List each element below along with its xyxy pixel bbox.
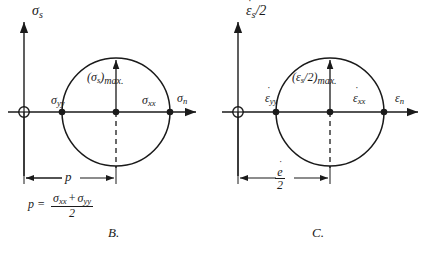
panel-b-linework (8, 22, 196, 184)
panel-c-point-eps-yy (273, 109, 280, 116)
panel-c-linework (222, 22, 418, 184)
panel-c-point-eps-xx (381, 109, 388, 116)
panel-b-x-axis-label: σn (177, 92, 187, 106)
panel-c-label-eps-yy: ˙εyy (265, 92, 277, 106)
panel-b-dimension-label: p (65, 170, 72, 183)
panel-b-point-center (113, 109, 120, 116)
panel-b-point-sigma-yy (59, 109, 66, 116)
panel-b-label-shear-max: (σs)max. (87, 71, 123, 85)
panel-b-point-sigma-xx (167, 109, 174, 116)
panel-b-formula: p = σxx+σyy 2 (28, 192, 93, 219)
panel-b-y-axis-label: σs (32, 4, 43, 20)
panel-b-label-sigma-yy: σyy (51, 94, 65, 108)
panel-b-caption: B. (108, 226, 119, 239)
panel-c-point-center (327, 109, 334, 116)
panel-b-label-sigma-xx: σxx (142, 94, 156, 108)
panel-c-caption: C. (312, 226, 324, 239)
panel-c-x-axis-label: εn (395, 92, 404, 106)
panel-c-label-eps-xx: ˙εxx (353, 92, 365, 106)
panel-c-label-shear-max: (εs/2)max. (292, 71, 337, 85)
panel-c-dimension-label: ˙e 2 (275, 166, 285, 191)
panel-c-y-axis-label: ˙εs/2 (246, 4, 266, 20)
